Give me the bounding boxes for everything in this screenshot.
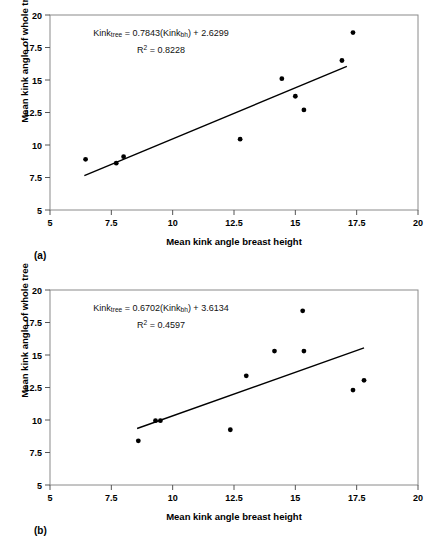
data-point [279, 76, 284, 81]
data-point [302, 108, 307, 113]
data-point [293, 94, 298, 99]
y-axis-label-a: Mean kink angle of whole tree [19, 0, 30, 141]
y-tick-label: 10 [32, 416, 42, 426]
figure-two-scatter-panels: 57.51012.51517.52057.51012.51517.520 Kin… [0, 0, 437, 549]
data-point [83, 157, 88, 162]
data-point [340, 58, 345, 63]
data-point [351, 388, 356, 393]
regression-line [137, 348, 364, 429]
y-tick-label: 20 [32, 286, 42, 296]
x-tick-label: 5 [47, 218, 52, 228]
y-tick-label: 7.5 [29, 448, 42, 458]
data-point [121, 154, 126, 159]
x-tick-label: 15 [290, 493, 300, 503]
x-tick-label: 17.5 [348, 493, 366, 503]
y-axis-label-b: Mean kink angle of whole tree [19, 246, 30, 416]
x-tick-label: 20 [413, 218, 423, 228]
equation-line-2-a: R2 = 0.8228 [56, 41, 266, 57]
data-point [362, 378, 367, 383]
x-tick-label: 12.5 [225, 493, 243, 503]
panel-b: 57.51012.51517.52057.51012.51517.520 Kin… [0, 275, 437, 549]
x-tick-label: 20 [413, 493, 423, 503]
data-point [238, 137, 243, 142]
y-tick-label: 15 [32, 76, 42, 86]
y-tick-label: 15 [32, 351, 42, 361]
equation-line-1-b: Kinktree = 0.6702(Kinkbh) + 3.6134 [93, 303, 228, 313]
y-tick-label: 5 [37, 206, 42, 216]
data-point [244, 373, 249, 378]
equation-line-1-a: Kinktree = 0.7843(Kinkbh) + 2.6299 [93, 28, 228, 38]
equation-line-2-b: R2 = 0.4597 [56, 316, 266, 332]
data-point [136, 438, 141, 443]
regression-equation-a: Kinktree = 0.7843(Kinkbh) + 2.6299 R2 = … [56, 27, 266, 57]
x-axis-label-a: Mean kink angle breast height [50, 236, 418, 247]
data-point [300, 308, 305, 313]
y-tick-label: 20 [32, 11, 42, 21]
panel-label-a: (a) [34, 250, 46, 261]
x-axis-label-b: Mean kink angle breast height [50, 511, 418, 522]
x-tick-label: 17.5 [348, 218, 366, 228]
x-tick-label: 5 [47, 493, 52, 503]
data-point [158, 418, 163, 423]
regression-line [84, 66, 347, 175]
x-tick-label: 15 [290, 218, 300, 228]
regression-equation-b: Kinktree = 0.6702(Kinkbh) + 3.6134 R2 = … [56, 302, 266, 332]
x-tick-label: 12.5 [225, 218, 243, 228]
data-point [302, 349, 307, 354]
x-tick-label: 10 [168, 493, 178, 503]
panel-label-b: (b) [34, 525, 47, 536]
x-tick-label: 10 [168, 218, 178, 228]
x-tick-label: 7.5 [105, 218, 118, 228]
y-tick-label: 5 [37, 481, 42, 491]
data-point [228, 427, 233, 432]
data-point [114, 161, 119, 166]
data-point [351, 30, 356, 35]
y-tick-label: 10 [32, 141, 42, 151]
panel-a: 57.51012.51517.52057.51012.51517.520 Kin… [0, 0, 437, 274]
y-tick-label: 7.5 [29, 173, 42, 183]
x-tick-label: 7.5 [105, 493, 118, 503]
data-point [153, 418, 158, 423]
data-point [272, 349, 277, 354]
